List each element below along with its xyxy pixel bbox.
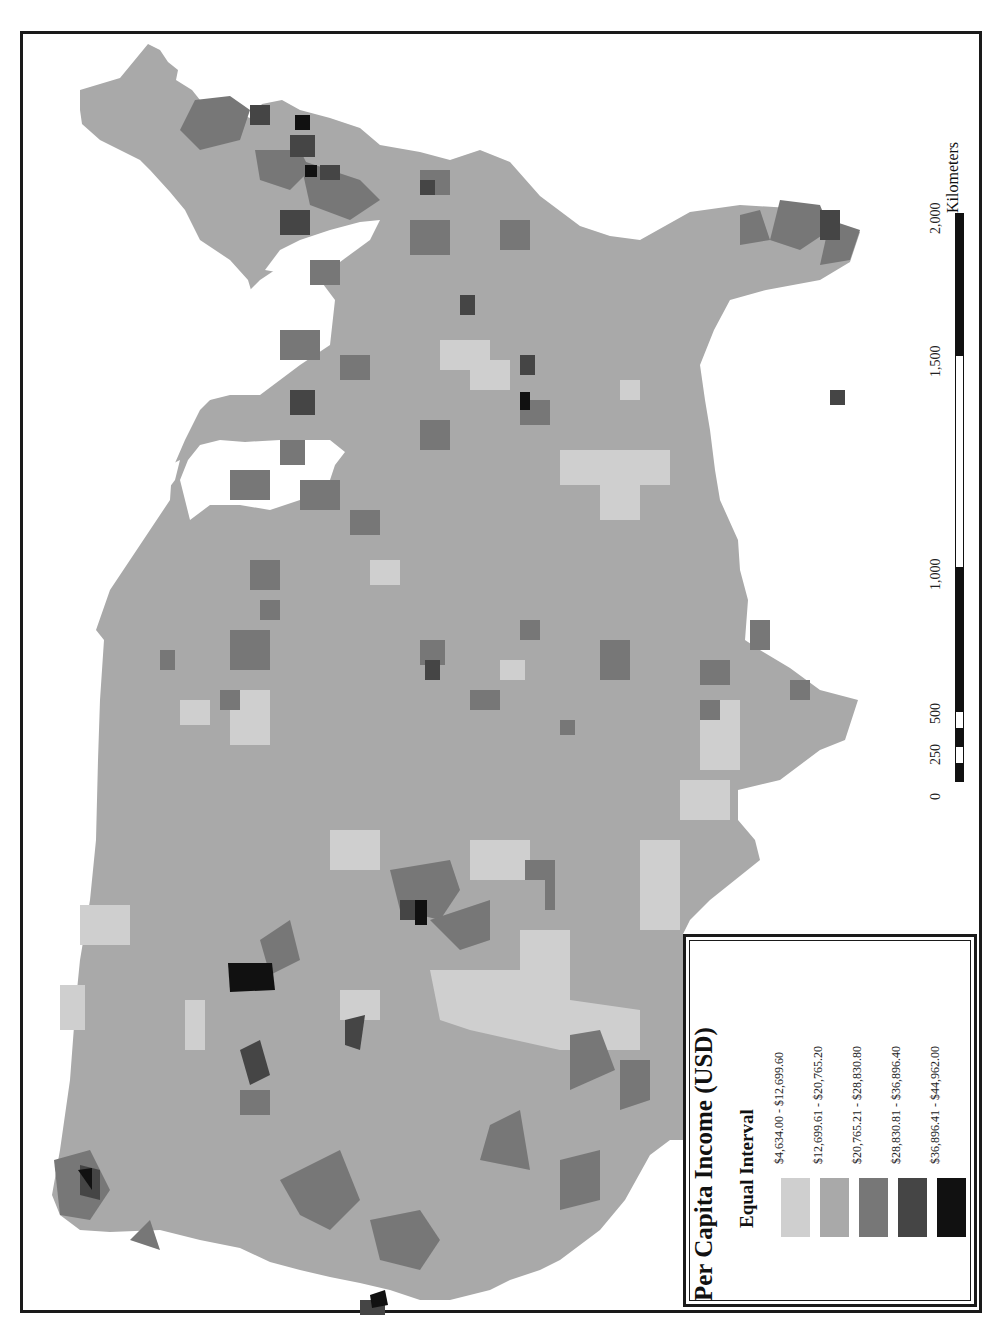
scale-unit: Kilometers [944,142,962,213]
scale-seg-125-250 [955,746,964,764]
legend-label-5: $36,896.41 - $44,962.00 [928,1046,943,1164]
scale-seg-0-125 [955,764,964,782]
legend-title: Per Capita Income (USD) [690,1027,718,1301]
legend-swatch-3 [859,1178,888,1237]
scale-tick-250: 250 [928,744,944,765]
scale-tick-500: 500 [928,703,944,724]
legend-swatch-4 [898,1178,927,1237]
scale-tick-0: 0 [928,793,944,800]
legend-label-4: $28,830.81 - $36,896.40 [889,1046,904,1164]
legend-swatch-2 [820,1178,849,1237]
scale-tick-1500: 1,500 [928,346,944,378]
legend-label-3: $20,765.21 - $28,830.80 [850,1046,865,1164]
legend-swatch-1 [781,1178,810,1237]
legend-label-1: $4,634.00 - $12,699.60 [772,1052,787,1164]
legend-classification: Equal Interval [736,1109,758,1228]
scale-seg-500-1000 [955,568,964,711]
legend: Per Capita Income (USD) Equal Interval $… [683,934,977,1307]
scale-seg-250-375 [955,729,964,746]
scale-seg-1000-1500 [955,355,964,568]
scale-tick-2000: 2,000 [928,203,944,235]
legend-swatch-5 [937,1178,966,1237]
scale-tick-1000: 1,000 [928,559,944,591]
legend-label-2: $12,699.61 - $20,765.20 [811,1046,826,1164]
scale-seg-375-500 [955,711,964,729]
scale-seg-1500-2000 [955,213,964,355]
